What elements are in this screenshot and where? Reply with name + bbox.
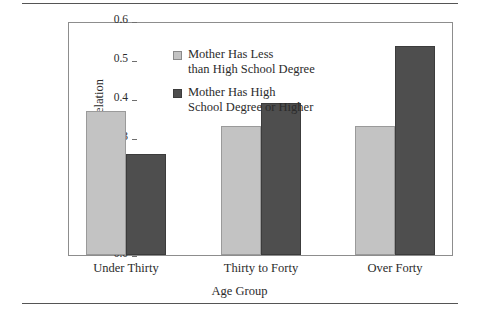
bottom-divider-rule xyxy=(22,303,458,304)
top-divider-rule xyxy=(22,3,458,4)
bar xyxy=(221,126,261,255)
y-axis-tick-mark xyxy=(132,22,137,23)
legend-swatch-icon xyxy=(173,51,182,60)
y-axis-tick-mark xyxy=(132,256,137,257)
legend-item: Mother Has HighSchool Degree or Higher xyxy=(173,85,403,115)
x-axis-tick-label: Over Forty xyxy=(295,262,479,275)
y-axis-tick-mark xyxy=(132,61,137,62)
y-axis-tick-label: 0.4 xyxy=(114,92,128,104)
y-axis-tick-label: 0.6 xyxy=(114,14,128,26)
x-axis-title: Age Group xyxy=(0,284,479,299)
legend-swatch-icon xyxy=(173,89,182,98)
legend-item: Mother Has Lessthan High School Degree xyxy=(173,47,403,77)
y-axis-tick-mark xyxy=(132,100,137,101)
chart-plot-area: 0.00.10.20.30.40.50.6 Intra-Class Correl… xyxy=(68,22,453,256)
chart-legend: Mother Has Lessthan High School DegreeMo… xyxy=(173,47,403,123)
legend-item-label: Mother Has Lessthan High School Degree xyxy=(188,47,315,77)
bar xyxy=(261,103,301,255)
bar xyxy=(355,126,395,255)
bar xyxy=(86,111,126,255)
legend-item-label: Mother Has HighSchool Degree or Higher xyxy=(188,85,313,115)
y-axis-tick-label: 0.5 xyxy=(114,53,128,65)
bar xyxy=(126,154,166,255)
y-axis-tick-mark xyxy=(132,139,137,140)
